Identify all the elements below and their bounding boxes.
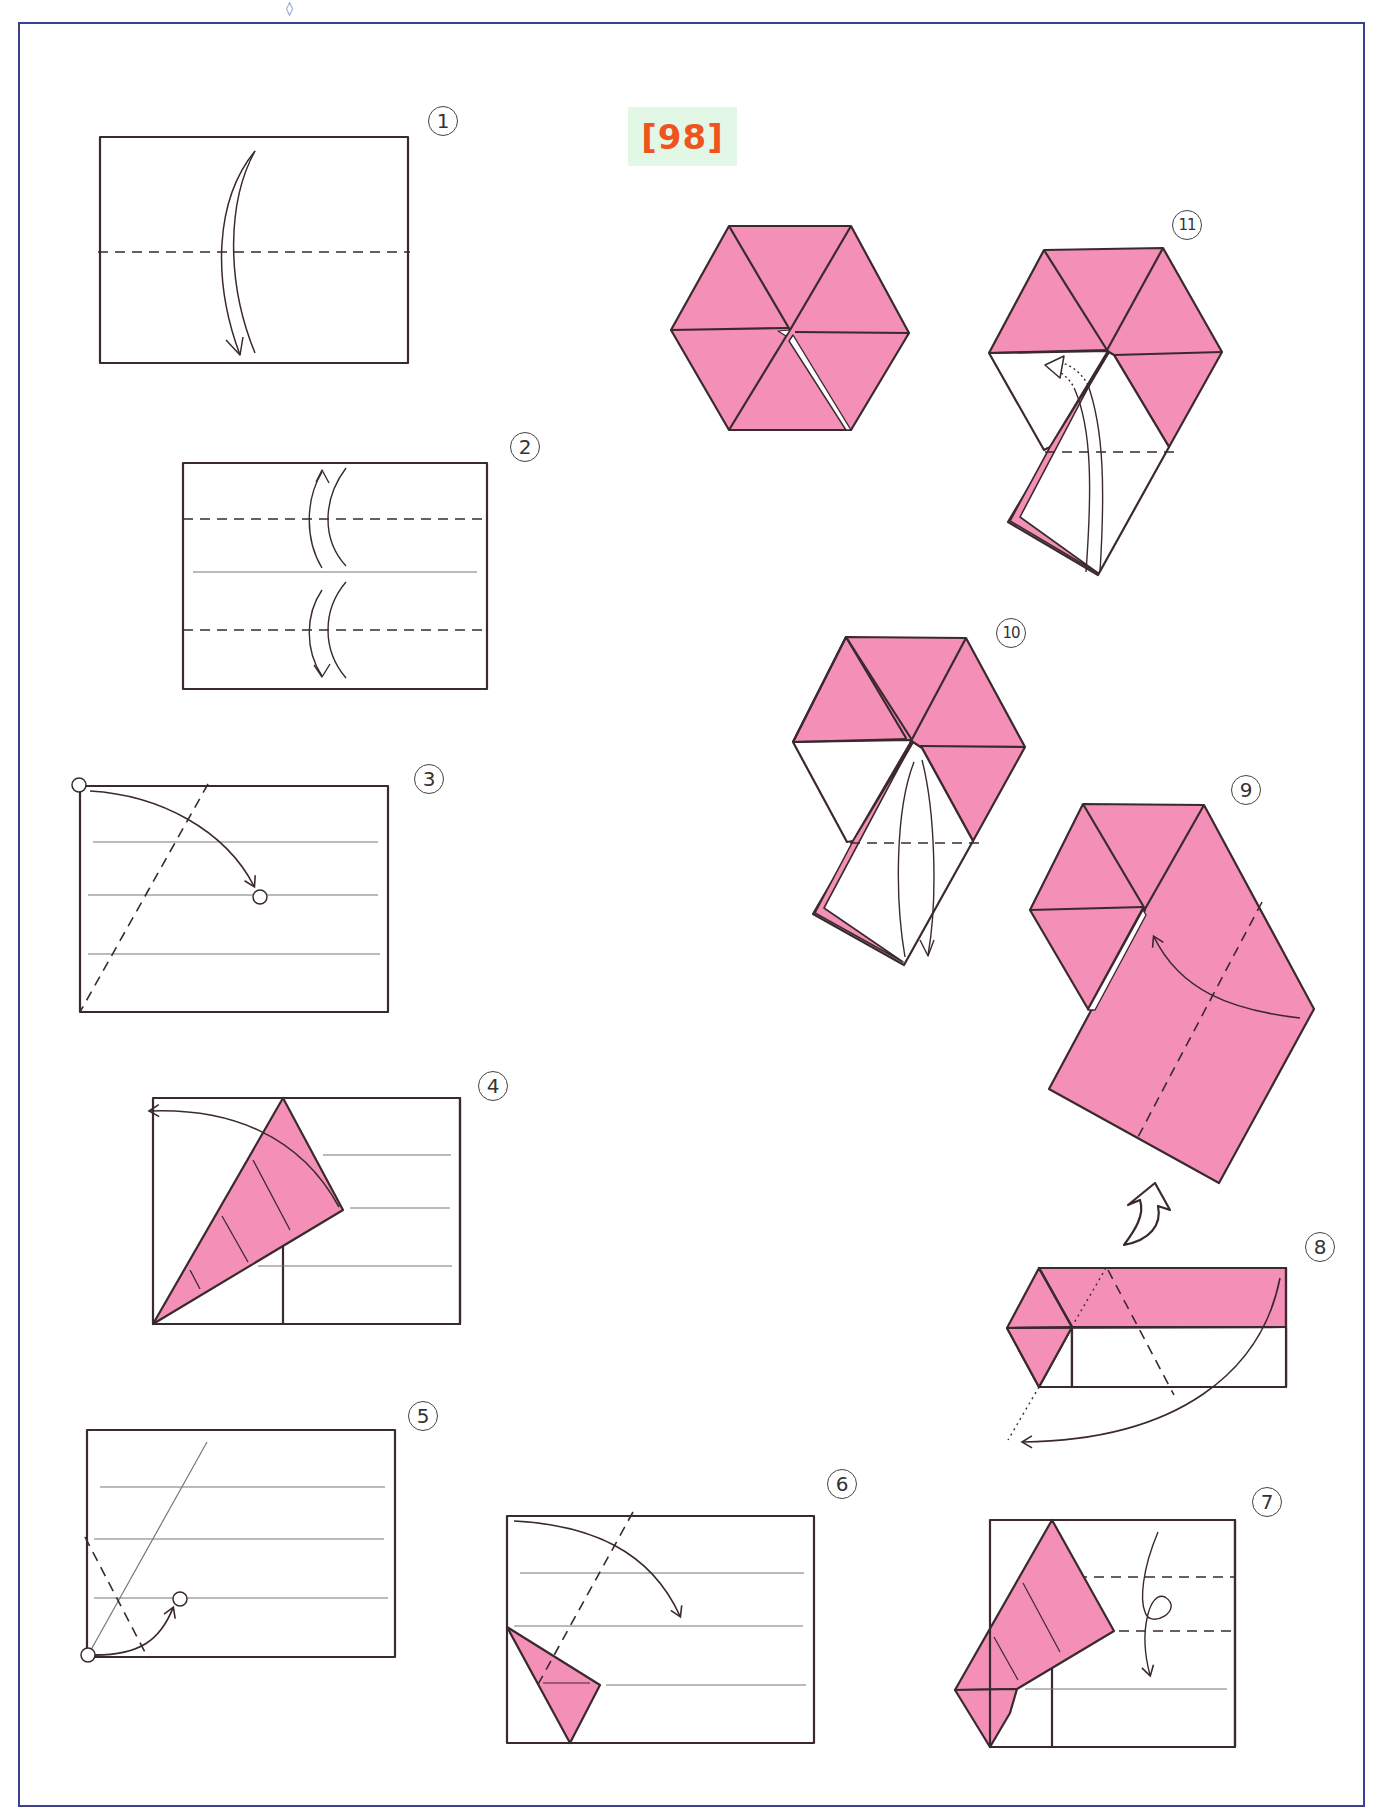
step-7-diagram bbox=[955, 1520, 1235, 1747]
step-2-diagram bbox=[183, 463, 487, 689]
finished-hexagon bbox=[671, 226, 909, 430]
step-10-diagram bbox=[793, 637, 1025, 965]
step-4-diagram bbox=[150, 1098, 460, 1324]
step-3-diagram bbox=[72, 778, 388, 1012]
step-1-diagram bbox=[98, 137, 410, 363]
step-9-diagram bbox=[1030, 804, 1314, 1183]
step-6-diagram bbox=[507, 1512, 814, 1743]
step-5-diagram bbox=[81, 1430, 395, 1662]
step-11-diagram bbox=[989, 248, 1222, 575]
step-8-diagram bbox=[1007, 1268, 1286, 1442]
transition-arrow-icon bbox=[1124, 1183, 1170, 1245]
origami-diagram bbox=[0, 0, 1386, 1815]
